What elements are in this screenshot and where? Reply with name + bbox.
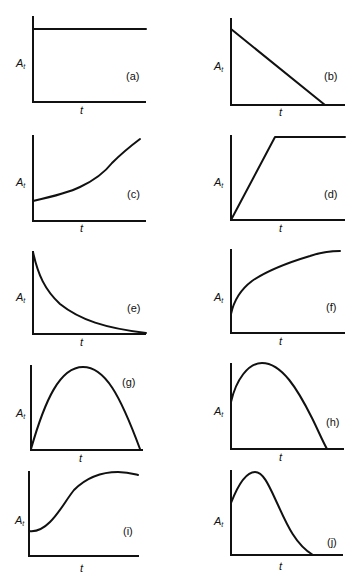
y-axis-label: At [15, 291, 26, 304]
panel-e: At t (e) [15, 251, 146, 348]
curve [29, 472, 138, 531]
panel-tag: (f) [326, 301, 336, 313]
x-axis-label: t [80, 222, 84, 234]
curve [231, 472, 313, 555]
x-axis-label: t [80, 336, 84, 348]
curve [231, 29, 325, 105]
panel-h: At t (h) [213, 363, 344, 463]
panel-tag: (i) [123, 525, 133, 537]
x-axis-label: t [279, 451, 283, 463]
y-axis-label: At [15, 57, 26, 70]
panel-tag: (h) [326, 416, 339, 428]
axes [29, 471, 139, 556]
panel-tag: (c) [127, 188, 140, 200]
x-axis-label: t [79, 452, 83, 464]
y-axis-label: At [213, 291, 224, 304]
panel-c: At t (c) [15, 135, 146, 234]
y-axis-label: At [14, 514, 25, 527]
panel-f: At t (f) [213, 249, 345, 347]
x-axis-label: t [80, 562, 84, 574]
panel-tag: (e) [127, 302, 140, 314]
curve [33, 139, 140, 201]
y-axis-label: At [213, 515, 224, 528]
axes [231, 249, 345, 333]
panel-j: At t (j) [213, 470, 343, 572]
x-axis-label: t [279, 106, 283, 118]
curve [231, 137, 345, 220]
panel-b: At t (b) [213, 18, 345, 118]
panel-tag: (a) [126, 70, 139, 82]
panel-tag: (d) [324, 188, 337, 200]
panel-i: At t (i) [14, 471, 139, 574]
panel-tag: (g) [122, 376, 135, 388]
panel-d: At t (d) [213, 135, 345, 234]
figure-canvas: At t (a) At t (b) At t (c) At t (d) At t… [0, 0, 356, 580]
x-axis-label: t [279, 222, 283, 234]
y-axis-label: At [15, 176, 26, 189]
axes [231, 363, 344, 449]
y-axis-label: At [213, 176, 224, 189]
curve [231, 363, 327, 449]
curve [33, 252, 146, 333]
y-axis-label: At [213, 405, 224, 418]
axes [231, 18, 345, 105]
panel-a: At t (a) [15, 16, 146, 116]
y-axis-label: At [213, 60, 224, 73]
x-axis-label: t [80, 104, 84, 116]
y-axis-label: At [15, 407, 26, 420]
axes [231, 135, 345, 220]
panel-g: At t (g) [15, 365, 143, 464]
panel-tag: (j) [327, 536, 337, 548]
x-axis-label: t [279, 560, 283, 572]
x-axis-label: t [279, 335, 283, 347]
panel-tag: (b) [324, 70, 337, 82]
curve [231, 251, 340, 314]
